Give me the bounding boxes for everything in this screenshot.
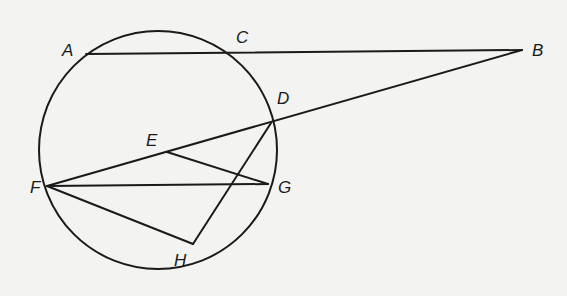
- segment-eg: [167, 152, 268, 184]
- point-labels: A B C D E F G H: [30, 28, 543, 270]
- label-f: F: [30, 178, 42, 197]
- label-h: H: [174, 251, 187, 270]
- segment-ab: [86, 50, 522, 54]
- diagram-canvas: A B C D E F G H: [0, 0, 567, 296]
- label-b: B: [532, 41, 543, 60]
- segment-bf: [47, 50, 522, 186]
- circle: [39, 31, 277, 269]
- label-e: E: [146, 131, 158, 150]
- segments: [47, 50, 522, 244]
- label-g: G: [278, 178, 291, 197]
- segment-fg: [47, 184, 268, 186]
- label-d: D: [277, 89, 289, 108]
- label-a: A: [61, 41, 73, 60]
- label-c: C: [236, 28, 249, 47]
- geometry-diagram: A B C D E F G H: [0, 0, 567, 296]
- segment-fh: [47, 186, 193, 244]
